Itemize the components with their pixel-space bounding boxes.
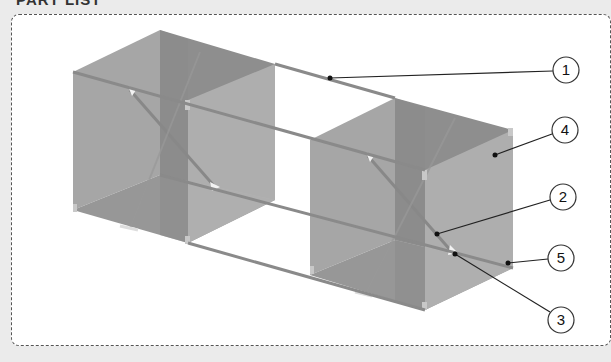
- corner-post-icon: [422, 170, 427, 180]
- left-cube: [73, 30, 275, 244]
- left-cube-corner-column: [160, 30, 188, 243]
- right-cube: [310, 98, 513, 310]
- callout-3[interactable]: 3: [548, 307, 574, 333]
- corner-post-icon: [73, 204, 77, 212]
- callout-4[interactable]: 4: [552, 117, 578, 143]
- callout-1[interactable]: 1: [553, 57, 579, 83]
- callout-label: 1: [562, 61, 570, 78]
- callout-label: 3: [557, 311, 565, 328]
- corner-post-icon: [310, 266, 314, 274]
- callout-label: 4: [561, 121, 569, 138]
- callout-5[interactable]: 5: [548, 245, 574, 271]
- callout-label: 2: [559, 188, 567, 205]
- corner-post-icon: [508, 128, 513, 136]
- rod-back-top: [275, 64, 395, 98]
- callout-2[interactable]: 2: [550, 184, 576, 210]
- callout-label: 5: [557, 249, 565, 266]
